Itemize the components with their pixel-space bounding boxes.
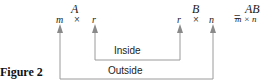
matrix-a-times: ×: [74, 15, 80, 25]
matrix-b-rows: r: [177, 15, 181, 25]
arrow-up-icon: [177, 24, 183, 33]
outside-label: Outside: [108, 66, 142, 76]
matrix-a-rows: m: [56, 15, 63, 25]
arrow-up-icon: [92, 24, 98, 33]
arrow-up-icon: [210, 24, 216, 33]
arrow-up-icon: [57, 24, 63, 33]
inside-label: Inside: [114, 46, 141, 56]
matrix-a-cols: r: [92, 15, 96, 25]
figure-caption: Figure 2: [0, 66, 43, 78]
matrix-b-times: ×: [193, 15, 199, 25]
matrix-b-cols: n: [209, 15, 214, 25]
product-dims: m × n: [235, 15, 257, 24]
